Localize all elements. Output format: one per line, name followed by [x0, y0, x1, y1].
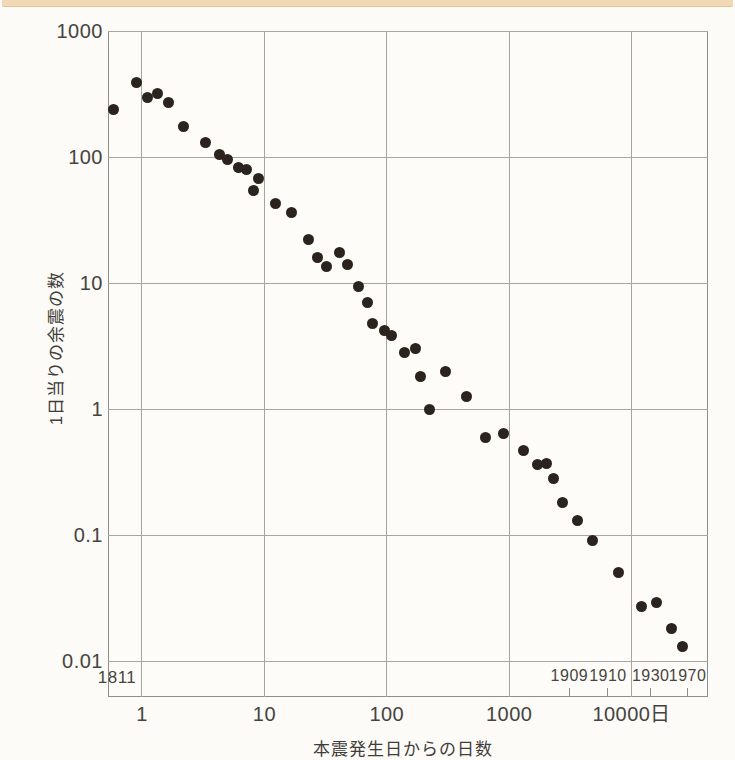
origin-year-label: 1811 — [92, 669, 142, 686]
aftershock-decay-plot-frame — [108, 31, 708, 697]
x-tick-label: 10000日 — [572, 704, 692, 724]
y-tick-label: 1000 — [33, 21, 103, 41]
page-top-edge-band — [2, 0, 733, 7]
x-axis-title: 本震発生日からの日数 — [253, 735, 553, 760]
x-tick-label: 1 — [82, 704, 202, 724]
scanned-book-page: 110100100010000日10001001010.10.01 190919… — [0, 0, 735, 760]
y-axis-title: 1日当りの余震の数 — [42, 138, 62, 558]
x-tick-label: 100 — [327, 704, 447, 724]
y-tick-label: 0.01 — [33, 651, 103, 671]
x-tick-label: 10 — [204, 704, 324, 724]
x-tick-label: 1000 — [449, 704, 569, 724]
